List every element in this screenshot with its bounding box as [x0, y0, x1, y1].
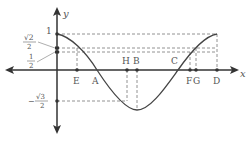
- point-H: [125, 68, 129, 72]
- y-tick-half-leader: [37, 52, 55, 62]
- label-E: E: [73, 76, 80, 86]
- label-C: C: [171, 56, 178, 66]
- point-G: [194, 68, 198, 72]
- point-D: [215, 68, 219, 72]
- point-B: [135, 68, 139, 72]
- label-A: A: [91, 76, 99, 86]
- label-H: H: [122, 56, 130, 66]
- y-axis-label: y: [62, 8, 69, 19]
- y-tick-sqrt2-den: 2: [27, 43, 31, 51]
- label-D: D: [213, 76, 220, 86]
- point-y-one: [55, 32, 59, 36]
- point-y-half: [55, 51, 59, 54]
- label-B: B: [133, 56, 140, 66]
- y-tick-neg-sign: −: [28, 97, 35, 106]
- point-E: [75, 68, 79, 72]
- y-tick-neg-sqrt3-den: 2: [40, 102, 44, 110]
- y-tick-sqrt2-leader: [38, 42, 55, 48]
- point-y-neg-sqrt3: [55, 99, 59, 103]
- point-y-sqrt2: [55, 47, 59, 50]
- y-tick-half-den: 2: [29, 62, 33, 70]
- y-tick-one: 1: [46, 26, 52, 36]
- y-tick-neg-sqrt3-num: √3: [36, 93, 45, 101]
- label-F: F: [186, 76, 192, 86]
- y-tick-half-num: 1: [29, 53, 33, 61]
- y-tick-sqrt2-num: √2: [24, 33, 34, 42]
- cosine-graph: y x 1 √2 2 1 2 − √3 2 E A H B C F G D: [0, 0, 251, 141]
- x-axis-label: x: [240, 68, 246, 79]
- label-G: G: [193, 76, 200, 86]
- point-F: [188, 68, 192, 72]
